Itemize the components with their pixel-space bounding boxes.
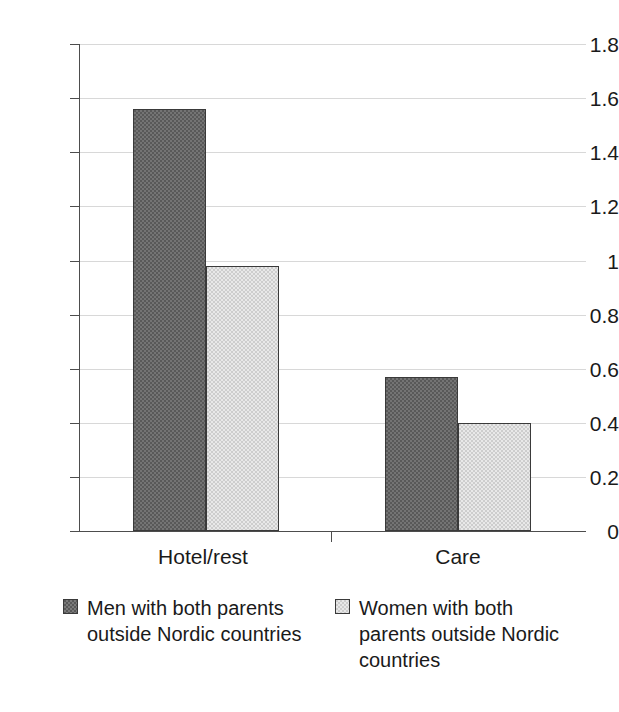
x-axis-label-hotel-rest: Hotel/rest — [123, 545, 283, 569]
y-tick-1.6 — [70, 98, 79, 99]
y-tick-0.4 — [70, 423, 79, 424]
bar-women-hotel-rest — [206, 266, 279, 531]
chart-legend: Men with both parents outside Nordic cou… — [0, 592, 619, 682]
x-tick-between-groups — [331, 532, 332, 542]
legend-label-men: Men with both parents outside Nordic cou… — [87, 595, 313, 647]
gridline-1.6 — [79, 98, 586, 99]
y-axis-label-0.4: 0.4 — [563, 413, 619, 434]
y-axis-label-0.8: 0.8 — [563, 305, 619, 326]
bar-chart: 1.8 1.6 1.4 1.2 1 0.8 0.6 0.4 0.2 0 Hote… — [0, 0, 619, 712]
light-hatch-swatch-icon — [335, 599, 350, 614]
legend-entry-women: Women with both parents outside Nordic c… — [335, 595, 585, 673]
y-tick-1.4 — [70, 152, 79, 153]
y-axis-label-0.2: 0.2 — [563, 467, 619, 488]
y-axis-line — [79, 44, 80, 532]
legend-label-women: Women with both parents outside Nordic c… — [359, 595, 564, 673]
y-axis-label-1.6: 1.6 — [563, 88, 619, 109]
y-axis-label-1.2: 1.2 — [563, 196, 619, 217]
gridline-1.8 — [79, 44, 586, 45]
y-axis-label-0: 0 — [563, 521, 619, 542]
dark-hatch-swatch-icon — [63, 599, 78, 614]
y-axis-label-1.4: 1.4 — [563, 142, 619, 163]
y-tick-1.8 — [70, 44, 79, 45]
y-tick-0 — [70, 531, 79, 532]
plot-area — [79, 44, 586, 531]
y-tick-0.2 — [70, 477, 79, 478]
y-axis-label-0.6: 0.6 — [563, 359, 619, 380]
y-tick-0.8 — [70, 315, 79, 316]
y-tick-1.2 — [70, 206, 79, 207]
y-axis-label-1: 1 — [563, 251, 619, 272]
y-axis-label-1.8: 1.8 — [563, 34, 619, 55]
bar-men-hotel-rest — [133, 109, 206, 531]
y-tick-0.6 — [70, 369, 79, 370]
legend-entry-men: Men with both parents outside Nordic cou… — [63, 595, 313, 647]
bar-women-care — [458, 423, 531, 531]
bar-men-care — [385, 377, 458, 531]
x-axis-label-care: Care — [378, 545, 538, 569]
gridline-baseline — [79, 531, 586, 532]
y-tick-1.0 — [70, 261, 79, 262]
